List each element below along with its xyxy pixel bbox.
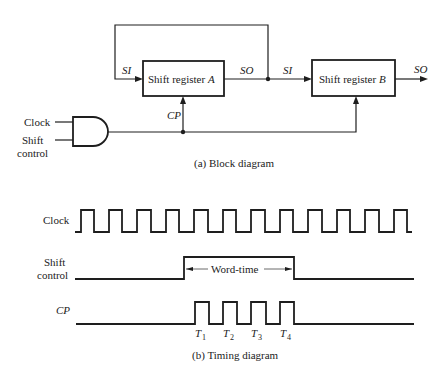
register-b-so-label: SO [414,63,428,75]
arrow-cp-register-a-icon [180,96,186,104]
pulse-label-t2: T 2 [223,327,234,342]
svg-text:3: 3 [258,333,262,342]
pulse-label-t3: T 3 [251,327,262,342]
svg-text:T: T [251,327,258,339]
timing-diagram-caption: (b) Timing diagram [192,349,279,362]
clock-waveform [75,210,412,232]
cp-bus-wire [108,100,356,132]
cp-waveform [76,302,414,324]
timing-diagram: Clock Shift control Word-time CP T 1 T 2… [37,210,414,362]
pulse-label-t4: T 4 [280,327,291,342]
svg-text:T: T [223,327,230,339]
register-a-so-label: SO [240,64,254,76]
arrow-output-icon [420,76,428,82]
clock-signal-label: Clock [43,214,70,226]
shift-register-figure: Shift register A SI SO SI Shift register… [0,0,446,377]
register-b-label: Shift register B [319,73,386,85]
svg-text:T: T [280,327,287,339]
svg-text:2: 2 [230,333,234,342]
block-diagram: Shift register A SI SO SI Shift register… [17,25,428,170]
block-diagram-caption: (a) Block diagram [194,157,274,170]
and-input-shift-label-2: control [17,147,48,159]
arrow-into-register-a-icon [135,76,143,82]
and-input-clock-label: Clock [24,116,51,128]
junction-dot-cp [181,130,185,134]
word-time-arrow-left-icon [186,267,193,271]
shift-control-signal-label-2: control [37,269,68,281]
svg-text:T: T [195,327,202,339]
arrow-cp-register-b-icon [353,96,359,104]
register-b-si-label: SI [283,64,294,76]
cp-label: CP [167,109,181,121]
register-a-label: Shift register A [148,73,215,85]
and-gate [73,117,108,146]
word-time-arrow-right-icon [285,267,292,271]
figure-canvas: Shift register A SI SO SI Shift register… [0,0,446,377]
pulse-label-t1: T 1 [195,327,206,342]
arrow-into-register-b-icon [304,76,312,82]
and-input-shift-label-1: Shift [22,134,43,146]
word-time-label: Word-time [211,263,258,275]
register-a-si-label: SI [122,64,133,76]
svg-text:1: 1 [202,333,206,342]
junction-dot-so [266,77,270,81]
shift-control-signal-label-1: Shift [44,256,65,268]
svg-text:4: 4 [287,333,291,342]
cp-signal-label: CP [56,304,70,316]
